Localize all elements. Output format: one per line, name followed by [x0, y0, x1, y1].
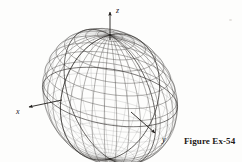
- figure-caption: Figure Ex-54: [184, 136, 235, 146]
- figure-container: z x y Figure Ex-54: [0, 0, 242, 162]
- axis-label-y: y: [162, 136, 166, 144]
- axis-line-y: [131, 112, 155, 133]
- surface-mesh: [42, 28, 177, 162]
- axis-label-z: z: [116, 7, 119, 15]
- axis-label-x: x: [16, 108, 20, 116]
- page-speck-artifact: [229, 19, 232, 21]
